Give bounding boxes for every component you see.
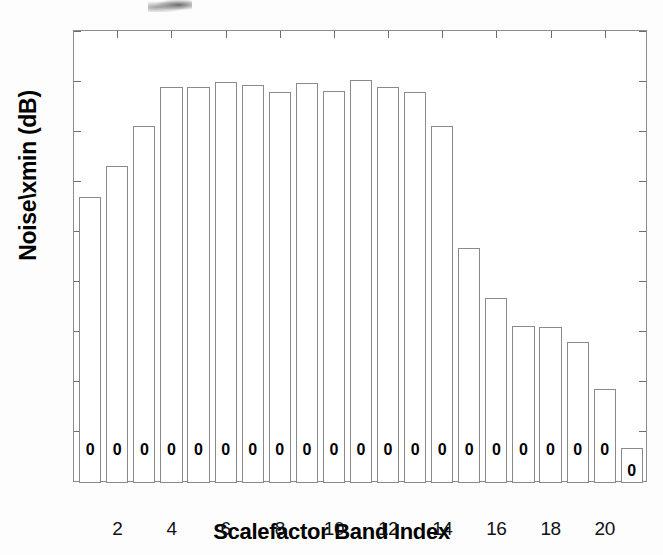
y-axis-tick-right <box>639 331 646 332</box>
x-axis-tick-label: 12 <box>368 518 408 540</box>
bar-value-label: 0 <box>80 441 100 459</box>
bar-value-label: 0 <box>459 441 479 459</box>
y-axis-tick-right <box>639 131 646 132</box>
bar-value-label: 0 <box>216 441 236 459</box>
x-axis-tick-label: 4 <box>151 518 191 540</box>
bar[interactable] <box>187 87 209 483</box>
bar-value-label: 0 <box>270 441 290 459</box>
plot-area: 140120100806040200-202468101214161820000… <box>73 30 647 482</box>
x-axis-tick-label: 16 <box>476 518 516 540</box>
x-axis-tick-label: 8 <box>260 518 300 540</box>
bar-value-label: 0 <box>405 441 425 459</box>
x-axis-tick-top <box>171 31 172 38</box>
bar-value-label: 0 <box>622 462 642 480</box>
bar[interactable] <box>377 87 399 483</box>
x-axis-tick-top <box>280 31 281 38</box>
y-axis-tick <box>74 131 81 132</box>
bar[interactable] <box>296 83 318 483</box>
x-axis-tick-top <box>496 31 497 38</box>
x-axis-tick-top <box>605 31 606 38</box>
bar[interactable] <box>323 91 345 483</box>
bar-value-label: 0 <box>513 441 533 459</box>
x-axis-tick-label: 10 <box>314 518 354 540</box>
bar-value-label: 0 <box>432 441 452 459</box>
y-axis-tick-right <box>639 381 646 382</box>
bar-value-label: 0 <box>189 441 209 459</box>
bar[interactable] <box>431 126 453 483</box>
y-axis-title: Noise\xmin (dB) <box>15 16 42 336</box>
bar[interactable] <box>594 389 616 483</box>
y-axis-tick-right <box>639 281 646 282</box>
bar-value-label: 0 <box>107 441 127 459</box>
x-axis-tick-top <box>117 31 118 38</box>
y-axis-tick <box>74 181 81 182</box>
y-axis-tick-right <box>639 231 646 232</box>
plot-inner: 140120100806040200-202468101214161820000… <box>74 31 646 481</box>
y-axis-tick-right <box>639 81 646 82</box>
x-axis-tick-label: 18 <box>531 518 571 540</box>
bar[interactable] <box>215 82 237 483</box>
figure-canvas: Noise\xmin (dB) Scalefactor Band Index 1… <box>0 0 663 555</box>
bar[interactable] <box>160 87 182 483</box>
x-axis-tick-top <box>442 31 443 38</box>
bar-value-label: 0 <box>351 441 371 459</box>
y-axis-tick <box>74 81 81 82</box>
x-axis-tick-label: 2 <box>97 518 137 540</box>
y-axis-tick-right <box>639 431 646 432</box>
x-axis-tick-label: 6 <box>206 518 246 540</box>
bar-value-label: 0 <box>541 441 561 459</box>
x-axis-tick-top <box>334 31 335 38</box>
x-axis-tick-label: 14 <box>422 518 462 540</box>
y-axis-tick-right <box>639 31 646 32</box>
x-axis-tick-top <box>551 31 552 38</box>
bar-value-label: 0 <box>243 441 263 459</box>
bar[interactable] <box>350 80 372 483</box>
bar[interactable] <box>242 85 264 483</box>
bar-value-label: 0 <box>161 441 181 459</box>
bar-value-label: 0 <box>134 441 154 459</box>
bar[interactable] <box>404 92 426 483</box>
bar[interactable] <box>133 126 155 483</box>
bar[interactable] <box>539 327 561 483</box>
bar[interactable] <box>567 342 589 483</box>
bar-value-label: 0 <box>378 441 398 459</box>
x-axis-tick-top <box>388 31 389 38</box>
bar[interactable] <box>106 166 128 483</box>
bar-value-label: 0 <box>486 441 506 459</box>
bar[interactable] <box>269 92 291 483</box>
bar-value-label: 0 <box>297 441 317 459</box>
bar-value-label: 0 <box>595 441 615 459</box>
y-axis-tick-right <box>639 181 646 182</box>
y-axis-tick <box>74 31 81 32</box>
x-axis-tick-label: 20 <box>585 518 625 540</box>
bar-value-label: 0 <box>324 441 344 459</box>
bar-value-label: 0 <box>568 441 588 459</box>
bar[interactable] <box>512 326 534 483</box>
scan-artifact <box>148 0 192 12</box>
x-axis-tick-top <box>226 31 227 38</box>
